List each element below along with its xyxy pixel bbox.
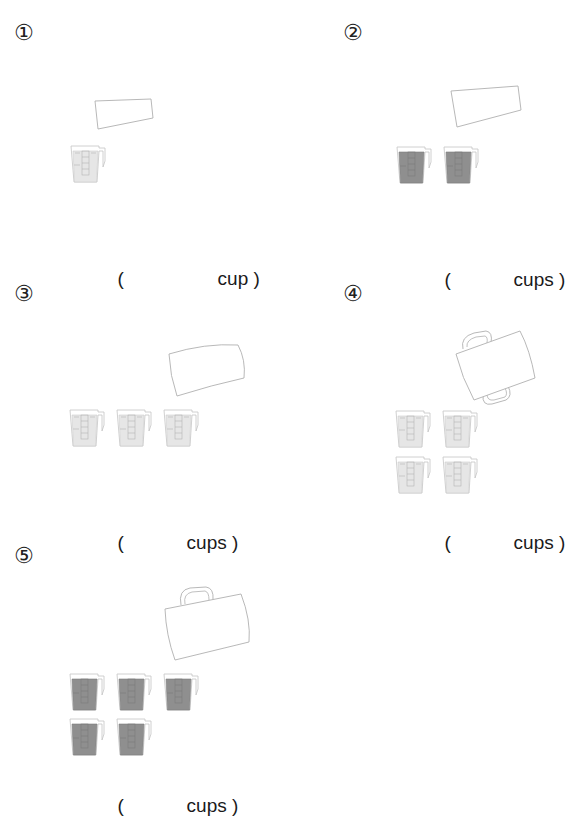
open-paren: ( [118, 796, 187, 815]
unit-label: cups [187, 795, 227, 816]
unit-label: cups [514, 269, 554, 290]
problem-4-measuring-cups [396, 411, 477, 493]
problem-3-bowl-icon [169, 345, 244, 396]
unit-label: cup [218, 268, 249, 289]
open-paren: ( [118, 533, 187, 552]
problem-2-answer: (cups ) [434, 251, 565, 289]
problem-2-measuring-cups [397, 147, 478, 183]
problem-4-pot-icon [456, 331, 535, 404]
close-paren: ) [559, 532, 565, 553]
problem-3-measuring-cups [70, 410, 198, 446]
problem-2-cup-icon [451, 86, 521, 127]
problem-5-answer: (cups ) [107, 777, 238, 815]
problem-5-measuring-cups [70, 674, 198, 755]
close-paren: ) [253, 268, 259, 289]
problem-1-measuring-cups [71, 146, 105, 182]
close-paren: ) [232, 795, 238, 816]
unit-label: cups [514, 532, 554, 553]
problem-1-cup-icon [95, 99, 153, 129]
open-paren: ( [118, 269, 218, 288]
close-paren: ) [559, 269, 565, 290]
open-paren: ( [445, 270, 514, 289]
problem-4-answer: (cups ) [434, 514, 565, 552]
problem-3-answer: (cups ) [107, 514, 238, 552]
close-paren: ) [232, 532, 238, 553]
open-paren: ( [445, 533, 514, 552]
unit-label: cups [187, 532, 227, 553]
problem-1-answer: (cup ) [107, 250, 260, 288]
illustration-canvas [0, 0, 587, 817]
problem-5-bucket-icon [165, 587, 249, 660]
